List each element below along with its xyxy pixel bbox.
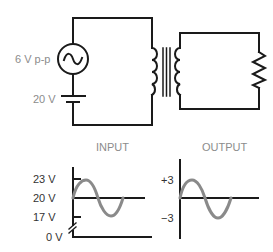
input-tick-17v: 17 V (33, 211, 56, 223)
input-graph-title: INPUT (96, 141, 129, 153)
primary-circuit (73, 18, 152, 125)
battery-icon (62, 96, 85, 102)
transformer-icon (152, 48, 180, 96)
input-tick-0v: 0 V (46, 231, 63, 243)
resistor-icon (253, 52, 265, 88)
input-tick-20v: 20 V (33, 192, 56, 204)
output-tick-minus3: −3 (161, 212, 174, 224)
output-graph (180, 160, 258, 238)
transformer-coupling-diagram: 6 V p-p 20 V INPUT (0, 0, 273, 252)
source-voltage-label: 6 V p-p (15, 53, 50, 65)
input-graph (69, 168, 151, 237)
secondary-circuit (180, 33, 259, 109)
battery-voltage-label: 20 V (33, 93, 56, 105)
input-tick-23v: 23 V (33, 173, 56, 185)
output-tick-plus3: +3 (161, 174, 174, 186)
ac-source-icon (58, 44, 88, 74)
output-graph-title: OUTPUT (202, 141, 248, 153)
